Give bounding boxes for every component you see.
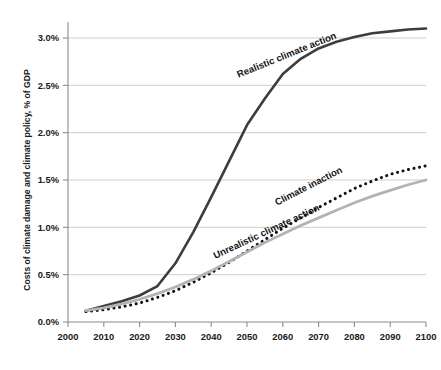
x-tick-label: 2040 (201, 331, 222, 342)
x-tick-label: 2090 (380, 331, 401, 342)
chart-container: 2000201020202030204020502060207020802090… (0, 0, 441, 370)
y-tick-label: 3.0% (38, 32, 60, 43)
x-tick-label: 2030 (165, 331, 186, 342)
x-tick-label: 2070 (308, 331, 329, 342)
y-axis-label-group: Costs of climate damage and climate poli… (22, 69, 32, 291)
y-tick-label: 2.0% (38, 127, 60, 138)
y-tick-label: 1.5% (38, 174, 60, 185)
y-tick-label: 1.0% (38, 222, 60, 233)
y-tick-label: 2.5% (38, 80, 60, 91)
y-tick-label: 0.5% (38, 269, 60, 280)
x-tick-label: 2000 (58, 331, 79, 342)
x-tick-label: 2080 (344, 331, 365, 342)
x-tick-label: 2050 (237, 331, 258, 342)
x-tick-label: 2010 (93, 331, 114, 342)
y-axis-title: Costs of climate damage and climate poli… (22, 69, 32, 291)
x-tick-label: 2020 (129, 331, 150, 342)
chart-background (0, 0, 441, 370)
y-tick-label: 0.0% (38, 316, 60, 327)
line-chart: 2000201020202030204020502060207020802090… (0, 0, 441, 370)
x-tick-label: 2060 (272, 331, 293, 342)
x-tick-label: 2100 (416, 331, 437, 342)
